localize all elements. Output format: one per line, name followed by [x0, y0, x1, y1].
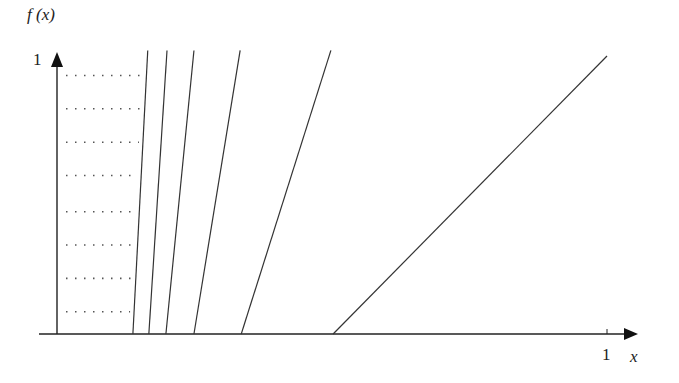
y-tick-label: 1: [33, 50, 42, 70]
data-line: [133, 50, 148, 334]
data-line: [166, 50, 194, 334]
chart-canvas: [0, 0, 679, 383]
y-axis-label: f (x): [27, 5, 55, 25]
data-line: [333, 56, 607, 334]
x-tick-label: 1: [602, 345, 611, 365]
y-axis-arrow-icon: [51, 52, 63, 67]
data-line: [149, 50, 167, 334]
dotted-levels: [66, 75, 142, 311]
data-lines: [133, 50, 607, 334]
x-axis-label: x: [630, 347, 638, 367]
data-line: [194, 50, 240, 334]
x-axis-arrow-icon: [624, 328, 638, 340]
data-line: [241, 50, 331, 334]
